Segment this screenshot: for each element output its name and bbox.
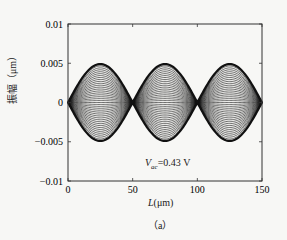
mode-shape-curves bbox=[68, 64, 262, 141]
annotation-sub: ac bbox=[151, 163, 158, 171]
x-tick-label: 50 bbox=[128, 184, 138, 195]
mode-curve bbox=[68, 81, 262, 102]
annotation-value: =0.43 V bbox=[158, 157, 191, 168]
x-tick-label: 150 bbox=[255, 184, 270, 195]
x-tick-label: 0 bbox=[66, 184, 71, 195]
x-tick-label: 100 bbox=[190, 184, 205, 195]
mode-curve bbox=[68, 93, 262, 103]
figure-caption: （a） bbox=[148, 217, 172, 232]
mode-curve bbox=[68, 103, 262, 109]
y-axis-label: 振幅（μm） bbox=[4, 51, 19, 104]
y-tick-label: 0.005 bbox=[41, 58, 64, 69]
y-tick-label: −0.005 bbox=[35, 136, 63, 147]
mode-curve bbox=[68, 103, 262, 113]
x-axis-label: L(μm) bbox=[148, 197, 173, 208]
chart-canvas: 0501001500.010.0050−0.005−0.01 bbox=[0, 0, 287, 240]
voltage-annotation: Vac=0.43 V bbox=[145, 157, 190, 171]
mode-curve bbox=[68, 103, 262, 136]
x-axis-unit: (μm) bbox=[154, 197, 174, 208]
y-tick-label: −0.01 bbox=[40, 176, 63, 187]
mode-curve bbox=[68, 85, 262, 102]
mode-curve bbox=[68, 97, 262, 103]
mode-curve bbox=[68, 103, 262, 120]
mode-curve bbox=[68, 70, 262, 103]
y-tick-label: 0.01 bbox=[46, 19, 64, 30]
mode-curve bbox=[68, 103, 262, 124]
y-tick-label: 0 bbox=[58, 97, 63, 108]
